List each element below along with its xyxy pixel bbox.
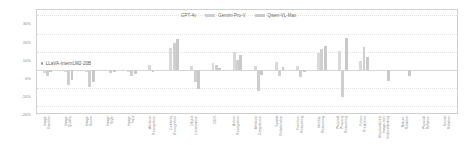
x-axis-tick-label: Spatial Relationship [275, 116, 283, 136]
y-axis-tick-label: 0% [25, 75, 31, 80]
bar-group [212, 10, 222, 113]
legend-item[interactable]: Gemini-Pro-V [205, 13, 245, 18]
bar-group [254, 10, 264, 113]
x-axis-tick-label: Physical Property Reasoning [336, 116, 348, 133]
legend-item[interactable]: Qwen-VL-Max [255, 13, 297, 18]
y-axis-tick-label: -10% [21, 93, 31, 98]
bar-group [444, 10, 454, 113]
x-axis-tick-label: Identity Reasoning [317, 116, 325, 133]
legend-item[interactable]: GPT-4v [168, 13, 196, 18]
bar-group [359, 10, 369, 113]
x-axis-tick-label: Physical Relation [422, 116, 430, 129]
bar-group [169, 10, 179, 113]
annotation-dot-icon [41, 62, 43, 64]
bar-group [106, 10, 116, 113]
x-axis-tick-label: Image Scene [85, 116, 93, 126]
x-axis-tick-label: Image Style [106, 116, 114, 126]
bar [278, 70, 281, 76]
legend-swatch-icon [255, 14, 265, 17]
bar [239, 55, 242, 69]
bar [408, 70, 411, 76]
bar-chart-figure: 30%20%10%0%-10%-20% GPT-4vGemini-Pro-VQw… [0, 0, 464, 163]
x-axis-tick-label: OCR [213, 116, 217, 124]
bar [324, 46, 327, 70]
legend-label: GPT-4v [181, 13, 196, 18]
bar [152, 70, 155, 72]
bar [92, 70, 95, 82]
bar [341, 70, 344, 97]
x-axis-tick-label: Image Quality [64, 116, 72, 127]
y-axis-tick-label: 20% [23, 39, 31, 44]
x-axis-tick-label: Nature Relation [401, 116, 409, 129]
bar [366, 57, 369, 70]
bar [176, 39, 179, 70]
bar-group [423, 10, 433, 113]
bar-group [401, 10, 411, 113]
bar [49, 70, 52, 73]
legend: GPT-4vGemini-Pro-VQwen-VL-Max [168, 13, 296, 18]
bar-group [275, 10, 285, 113]
bar-group [317, 10, 327, 113]
y-axis-tick-label: 10% [23, 57, 31, 62]
bar [134, 70, 137, 75]
bar [260, 70, 263, 75]
bar [387, 70, 390, 81]
y-axis: 30%20%10%0%-10%-20% [0, 18, 34, 114]
legend-label: Qwen-VL-Max [268, 13, 297, 18]
x-axis-tick-label: Action Recognition [232, 116, 240, 135]
legend-swatch-icon [205, 14, 215, 17]
series-annotation: LLaVA-InternLM2-20B [41, 61, 91, 66]
bar [338, 51, 341, 70]
bar [218, 68, 221, 70]
bar [113, 70, 116, 72]
bar-group [127, 10, 137, 113]
y-axis-tick-label: 30% [23, 21, 31, 26]
x-axis-tick-label: Structuralized Image-text Understanding [378, 116, 390, 139]
bars-layer [37, 10, 457, 113]
y-axis-tick-label: -20% [21, 111, 31, 116]
x-axis-tick-label: Attribute Recognition [148, 116, 156, 135]
bar [282, 67, 285, 70]
bar [71, 70, 74, 80]
plot-area [36, 9, 458, 114]
bar-group [148, 10, 158, 113]
bar [275, 62, 278, 70]
legend-label: Gemini-Pro-V [218, 13, 245, 18]
annotation-label: LLaVA-InternLM2-20B [46, 61, 91, 66]
bar-group [338, 10, 348, 113]
bar-group [296, 10, 306, 113]
x-axis-tick-label: Celebrity Recognition [169, 116, 177, 135]
x-axis-tick-label: Image Emotion [43, 116, 51, 129]
x-axis-tick-label: Future Prediction [359, 116, 367, 132]
bar-group [380, 10, 390, 113]
bar [303, 70, 306, 72]
bar-group [190, 10, 200, 113]
x-axis-tick-label: Attribute Comparison [254, 116, 262, 135]
bar [197, 70, 200, 89]
x-axis-tick-label: Object Localization [190, 116, 198, 135]
bar [345, 38, 348, 70]
x-axis: Image EmotionImage QualityImage SceneIma… [36, 116, 458, 163]
x-axis-tick-label: Function Reasoning [296, 116, 304, 133]
x-axis-tick-label: Social Relation [443, 116, 451, 129]
bar-group [233, 10, 243, 113]
x-axis-tick-label: Image Topic [127, 116, 135, 126]
